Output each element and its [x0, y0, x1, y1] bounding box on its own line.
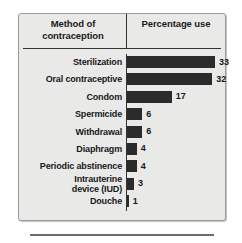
bar-track — [126, 56, 215, 68]
axis-baseline — [126, 54, 127, 211]
bar-fill — [126, 73, 212, 85]
column-header-method: Method of contraception — [19, 18, 127, 41]
bar-fill — [126, 178, 134, 190]
bar-track — [126, 91, 172, 103]
bar-value-label: 6 — [146, 109, 151, 120]
bar-value-label: 33 — [219, 57, 229, 68]
bar-track — [126, 143, 137, 155]
column-header-percentage: Percentage use — [127, 18, 225, 30]
table-header: Method of contraception Percentage use — [19, 14, 225, 49]
bar-fill — [126, 108, 142, 120]
bar-row-label: Oral contraceptive — [19, 74, 122, 84]
bar-row: Withdrawal6 — [19, 124, 225, 141]
bar-row: Sterilization33 — [19, 54, 225, 71]
bar-rows: Sterilization33Oral contraceptive32Condo… — [19, 54, 225, 211]
bar-fill — [126, 126, 142, 138]
bar-row: Oral contraceptive32 — [19, 71, 225, 88]
bar-row: Intrauterine device (IUD)3 — [19, 176, 225, 193]
bar-row-label: Spermicide — [19, 109, 122, 119]
bar-fill — [126, 143, 137, 155]
bar-value-label: 1 — [133, 196, 138, 207]
bar-track — [126, 160, 137, 172]
bar-row-label: Periodic abstinence — [19, 161, 122, 171]
bar-row: Douche1 — [19, 193, 225, 210]
bar-track — [126, 178, 134, 190]
bar-value-label: 6 — [146, 126, 151, 137]
bar-row: Diaphragm4 — [19, 141, 225, 158]
bar-fill — [126, 160, 137, 172]
bar-value-label: 3 — [138, 178, 143, 189]
bar-row-label: Diaphragm — [19, 144, 122, 154]
bar-fill — [126, 91, 172, 103]
bar-row-label: Withdrawal — [19, 127, 122, 137]
bar-row-label: Sterilization — [19, 57, 122, 67]
bar-value-label: 4 — [141, 143, 146, 154]
bar-row: Condom17 — [19, 89, 225, 106]
bar-track — [126, 73, 212, 85]
bar-row: Spermicide6 — [19, 106, 225, 123]
bar-track — [126, 108, 142, 120]
bar-value-label: 32 — [216, 74, 226, 85]
header-horizontal-rule — [23, 48, 221, 49]
footer-rule — [30, 234, 214, 236]
bar-row-label: Douche — [19, 196, 122, 206]
header-vertical-divider — [126, 14, 127, 49]
bar-row-label: Condom — [19, 92, 122, 102]
contraception-chart-panel: Method of contraception Percentage use S… — [18, 13, 226, 221]
bar-value-label: 17 — [176, 91, 186, 102]
bar-fill — [126, 56, 215, 68]
bar-track — [126, 126, 142, 138]
bar-value-label: 4 — [141, 161, 146, 172]
bar-row-label: Intrauterine device (IUD) — [19, 174, 122, 194]
